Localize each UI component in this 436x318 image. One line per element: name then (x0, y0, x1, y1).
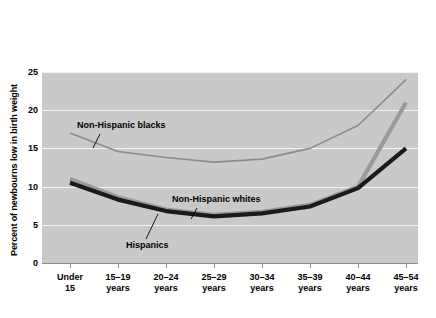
x-tick-mark-6 (358, 263, 359, 268)
gridline-10 (42, 187, 418, 188)
gridline-20 (42, 110, 418, 111)
y-tick-label-0: 0 (8, 259, 38, 268)
x-axis-line (42, 263, 418, 264)
series-label-non-hispanic-whites: Non-Hispanic whites (172, 194, 261, 204)
y-tick-label-10: 10 (8, 183, 38, 192)
x-tick-mark-3 (214, 263, 215, 268)
y-tick-label-15: 15 (8, 144, 38, 153)
x-tick-mark-5 (310, 263, 311, 268)
y-tick-label-25: 25 (8, 68, 38, 77)
x-tick-label-7: 45–54years (376, 272, 436, 294)
gridline-15 (42, 148, 418, 149)
series-label-non-hispanic-blacks: Non-Hispanic blacks (77, 120, 166, 130)
x-tick-mark-4 (262, 263, 263, 268)
x-tick-mark-7 (406, 263, 407, 268)
y-axis-tick-labels: 0510152025 (4, 0, 38, 318)
series-label-hispanics: Hispanics (126, 240, 169, 250)
x-tick-mark-0 (70, 263, 71, 268)
x-tick-mark-2 (166, 263, 167, 268)
gridline-25 (42, 72, 418, 73)
x-tick-mark-1 (118, 263, 119, 268)
plot-area (42, 72, 418, 263)
y-tick-label-20: 20 (8, 106, 38, 115)
birth-weight-line-chart: Percent of newbourns low in birth weight… (0, 0, 436, 318)
y-tick-label-5: 5 (8, 221, 38, 230)
gridline-5 (42, 225, 418, 226)
